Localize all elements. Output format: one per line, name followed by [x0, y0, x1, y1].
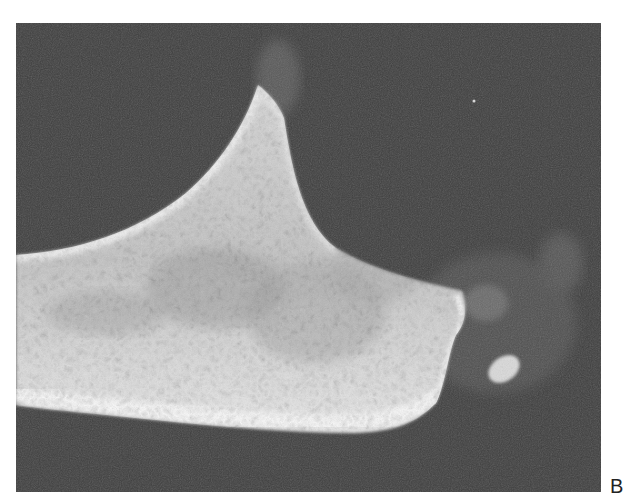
radiograph-illustration [16, 23, 601, 492]
film-grain [16, 23, 601, 492]
radiograph-image [16, 23, 601, 492]
panel-label: B [610, 476, 623, 496]
